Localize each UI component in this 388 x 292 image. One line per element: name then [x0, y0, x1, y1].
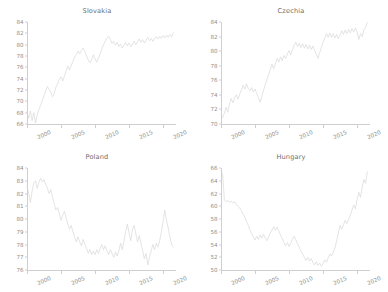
- series-canvas: [221, 22, 369, 124]
- x-tick-mark: [221, 125, 222, 128]
- x-tick-mark: [95, 125, 96, 128]
- panel-title-slovakia: Slovakia: [0, 7, 194, 15]
- x-tick-mark: [27, 271, 28, 274]
- y-tick-mark: [219, 231, 222, 232]
- y-tick-mark: [25, 231, 28, 232]
- plot-area-czechia: 7072747678808284: [221, 22, 369, 124]
- y-tick-mark: [25, 193, 28, 194]
- y-tick-mark: [25, 78, 28, 79]
- plot-area-hungary: 505254565860626466: [221, 168, 369, 270]
- panel-title-hungary: Hungary: [194, 153, 388, 161]
- y-tick-mark: [25, 101, 28, 102]
- x-tick-label: 2000: [36, 129, 51, 140]
- x-tick-mark: [221, 271, 222, 274]
- x-tick-mark: [163, 125, 164, 128]
- line-series-czechia: [221, 23, 367, 118]
- y-tick-mark: [219, 193, 222, 194]
- x-tick-label: 2005: [264, 129, 279, 140]
- x-tick-label: 2010: [104, 129, 119, 140]
- y-tick-mark: [25, 244, 28, 245]
- x-tick-mark: [27, 125, 28, 128]
- x-tick-label: 2010: [298, 129, 313, 140]
- x-tick-mark: [255, 125, 256, 128]
- x-tick-mark: [357, 125, 358, 128]
- y-tick-mark: [25, 219, 28, 220]
- x-tick-mark: [95, 271, 96, 274]
- series-canvas: [221, 168, 369, 270]
- y-tick-mark: [219, 22, 222, 23]
- panel-slovakia: Slovakia 66687072747678808284 2000200520…: [0, 0, 194, 146]
- x-tick-mark: [323, 271, 324, 274]
- line-series-slovakia: [27, 33, 173, 123]
- x-tick-label: 2000: [230, 129, 245, 140]
- x-tick-label: 2020: [172, 129, 187, 140]
- y-tick-mark: [25, 257, 28, 258]
- y-tick-mark: [219, 51, 222, 52]
- panel-title-czechia: Czechia: [194, 7, 388, 15]
- x-tick-mark: [163, 271, 164, 274]
- y-tick-mark: [25, 22, 28, 23]
- x-tick-mark: [289, 271, 290, 274]
- y-tick-mark: [219, 94, 222, 95]
- panel-hungary: Hungary 505254565860626466 2000200520102…: [194, 146, 388, 292]
- y-tick-mark: [25, 180, 28, 181]
- y-tick-mark: [219, 80, 222, 81]
- plot-area-slovakia: 66687072747678808284: [27, 22, 175, 124]
- y-tick-mark: [219, 219, 222, 220]
- y-tick-mark: [25, 56, 28, 57]
- panel-title-poland: Poland: [0, 153, 194, 161]
- x-tick-mark: [323, 125, 324, 128]
- x-tick-label: 2005: [70, 129, 85, 140]
- x-tick-label: 2015: [332, 129, 347, 140]
- y-tick-mark: [25, 206, 28, 207]
- panel-poland: Poland 767778798081828384 20002005201020…: [0, 146, 194, 292]
- y-tick-mark: [25, 90, 28, 91]
- y-tick-mark: [25, 33, 28, 34]
- chart-grid: Slovakia 66687072747678808284 2000200520…: [0, 0, 388, 292]
- y-tick-mark: [219, 244, 222, 245]
- figure-caption-clipped: [0, 285, 388, 292]
- panel-czechia: Czechia 7072747678808284 200020052010201…: [194, 0, 388, 146]
- y-tick-mark: [219, 180, 222, 181]
- x-tick-label: 2015: [138, 129, 153, 140]
- x-tick-mark: [129, 125, 130, 128]
- y-tick-mark: [219, 168, 222, 169]
- y-tick-mark: [25, 168, 28, 169]
- y-tick-mark: [25, 112, 28, 113]
- y-tick-mark: [219, 65, 222, 66]
- x-tick-labels: 20002005201020152020: [221, 125, 370, 145]
- x-tick-mark: [61, 125, 62, 128]
- x-tick-mark: [129, 271, 130, 274]
- plot-area-poland: 767778798081828384: [27, 168, 175, 270]
- y-tick-mark: [219, 257, 222, 258]
- line-series-hungary: [221, 171, 367, 267]
- line-series-poland: [27, 178, 173, 265]
- y-tick-mark: [25, 67, 28, 68]
- y-tick-mark: [219, 36, 222, 37]
- y-tick-mark: [219, 206, 222, 207]
- y-tick-mark: [219, 109, 222, 110]
- x-tick-mark: [357, 271, 358, 274]
- x-tick-mark: [61, 271, 62, 274]
- x-tick-labels: 20002005201020152020: [27, 125, 176, 145]
- y-tick-mark: [25, 44, 28, 45]
- x-tick-mark: [289, 125, 290, 128]
- series-canvas: [27, 168, 175, 270]
- x-tick-label: 2020: [366, 129, 381, 140]
- x-tick-mark: [255, 271, 256, 274]
- series-canvas: [27, 22, 175, 124]
